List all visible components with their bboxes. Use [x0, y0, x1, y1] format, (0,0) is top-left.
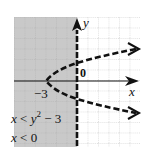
tick-label-neg3: −3: [34, 86, 48, 101]
inequality-graph: y x 0 −3 x < y2 − 3 x < 0: [0, 0, 144, 155]
inequality-1: x < y2 − 3: [10, 109, 61, 126]
inequality-2: x < 0: [10, 130, 37, 145]
x-axis-label: x: [128, 84, 135, 99]
y-axis-label: y: [81, 15, 89, 30]
origin-label: 0: [80, 66, 86, 80]
